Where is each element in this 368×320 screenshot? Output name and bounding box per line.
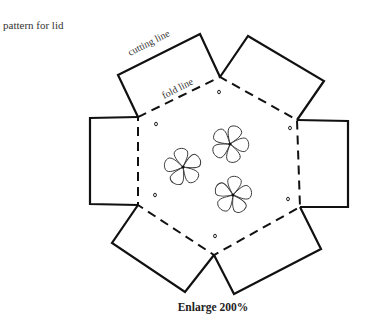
hole-mark: [289, 126, 292, 130]
enlarge-caption: Enlarge 200%: [0, 301, 368, 313]
hole-mark: [154, 193, 157, 197]
tab-left: [90, 117, 138, 205]
fold-line-label: fold line: [160, 75, 195, 100]
hole-mark: [214, 234, 217, 238]
tab-bottom-right: [214, 207, 321, 294]
tab-top-right: [220, 36, 324, 120]
hole-mark: [287, 197, 290, 201]
cutting-line-label: cutting line: [126, 27, 172, 58]
hole-mark: [155, 122, 158, 126]
tab-right: [297, 120, 348, 207]
cutting-lines: [90, 34, 348, 294]
fold-line-hexagon: [138, 77, 300, 255]
flower-icon: [164, 147, 203, 186]
tab-bottom-left: [112, 205, 214, 292]
flower-icon: [213, 176, 253, 215]
flower-icon: [210, 124, 248, 164]
lid-pattern-diagram: cutting line fold line: [0, 0, 368, 320]
hole-mark: [218, 90, 221, 94]
